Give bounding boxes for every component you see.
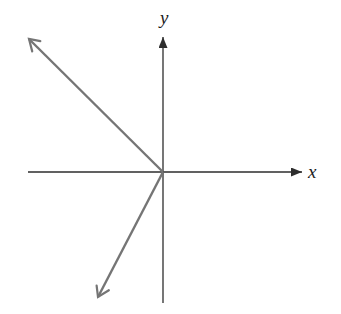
figure-canvas: x y — [0, 0, 341, 314]
vector-up-left — [29, 39, 163, 172]
y-axis-label: y — [158, 7, 169, 28]
x-axis-label: x — [307, 161, 317, 182]
vector-down-left — [98, 172, 163, 297]
vector-diagram: x y — [0, 0, 341, 314]
